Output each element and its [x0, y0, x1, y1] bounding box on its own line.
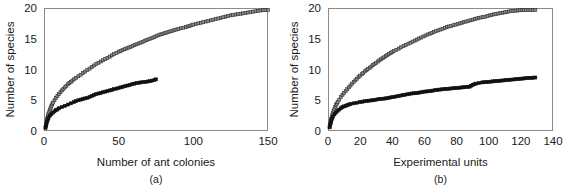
y-tick-label: 10: [24, 64, 37, 76]
y-axis-label: Number of species: [288, 21, 300, 117]
x-tick-label: 80: [450, 135, 463, 147]
data-series: [44, 78, 158, 130]
plot-frame: [45, 9, 268, 131]
x-tick-label: 120: [511, 135, 530, 147]
data-series: [328, 76, 537, 129]
x-tick-label: 0: [325, 135, 331, 147]
series-marker: [63, 104, 66, 107]
x-tick-label: 100: [184, 135, 203, 147]
panel-caption: (b): [434, 173, 447, 185]
plot-frame: [329, 9, 553, 131]
x-tick-label: 100: [479, 135, 498, 147]
series-marker: [478, 82, 481, 85]
y-tick-label: 5: [31, 94, 37, 106]
y-tick-label: 15: [24, 33, 37, 45]
x-tick-label: 60: [418, 135, 431, 147]
chart-panel-a: 05010015005101520Number of ant coloniesN…: [0, 0, 285, 188]
x-axis-label: Experimental units: [393, 156, 488, 168]
series-marker: [66, 103, 69, 106]
x-tick-label: 0: [41, 135, 47, 147]
y-axis-label: Number of species: [4, 21, 16, 117]
series-line: [330, 10, 536, 127]
series-marker: [267, 8, 270, 11]
x-tick-label: 140: [543, 135, 562, 147]
chart-panel-b: 02040608010012014005101520Experimental u…: [285, 0, 569, 188]
x-axis-label: Number of ant colonies: [97, 156, 216, 168]
data-series: [44, 8, 270, 128]
species-accumulation-figure: 05010015005101520Number of ant coloniesN…: [0, 0, 569, 188]
x-tick-label: 150: [258, 135, 277, 147]
series-marker: [534, 8, 537, 11]
series-marker: [349, 102, 352, 105]
y-tick-label: 15: [308, 33, 321, 45]
y-tick-label: 5: [315, 94, 321, 106]
data-series: [328, 8, 537, 128]
series-marker: [474, 82, 477, 85]
panel-caption: (a): [150, 173, 163, 185]
series-marker: [534, 76, 537, 79]
series-line: [45, 79, 156, 128]
series-marker: [69, 102, 72, 105]
x-tick-label: 50: [112, 135, 125, 147]
series-marker: [60, 106, 63, 109]
x-tick-label: 20: [354, 135, 367, 147]
series-line: [45, 10, 268, 127]
y-tick-label: 0: [31, 125, 37, 137]
y-tick-label: 20: [308, 2, 321, 14]
y-tick-label: 0: [315, 125, 321, 137]
series-marker: [57, 107, 60, 110]
y-tick-label: 20: [24, 2, 37, 14]
x-tick-label: 40: [386, 135, 399, 147]
series-marker: [352, 102, 355, 105]
y-tick-label: 10: [308, 64, 321, 76]
series-marker: [155, 78, 158, 81]
series-marker: [355, 101, 358, 104]
